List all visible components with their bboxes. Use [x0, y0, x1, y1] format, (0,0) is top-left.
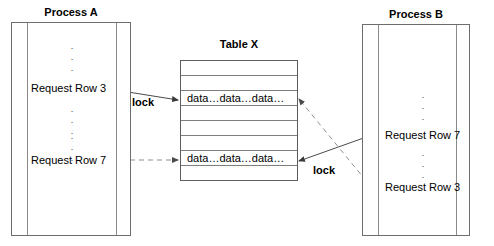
process-a-inner-line-left — [27, 23, 28, 235]
table-row — [181, 166, 297, 180]
table-row — [181, 76, 297, 91]
process-b-dots-top: · · · — [420, 92, 426, 125]
table-title: Table X — [180, 38, 298, 50]
process-a-title: Process A — [11, 6, 131, 18]
lock-label-left: lock — [132, 96, 154, 108]
table-row: data…data…data… — [181, 91, 297, 106]
lock-label-right: lock — [313, 164, 335, 176]
process-b-title: Process B — [362, 8, 470, 20]
process-b-dots-middle: · · · — [420, 150, 426, 183]
process-a-dots-top: · · · — [69, 43, 75, 76]
process-b-request-1: Request Row 3 — [385, 181, 460, 193]
process-a-request-0: Request Row 3 — [31, 82, 106, 94]
table-x-box: data…data…data… data…data…data… — [180, 60, 298, 181]
process-b-inner-line-left — [378, 25, 379, 235]
deadlock-diagram: Process A · · · Request Row 3 · · · · · … — [0, 0, 494, 246]
table-row — [181, 136, 297, 151]
table-row — [181, 121, 297, 136]
process-b-request-0: Request Row 7 — [385, 129, 460, 141]
table-row: data…data…data… — [181, 151, 297, 166]
table-row-text: data…data…data… — [187, 92, 284, 104]
table-row-text: data…data…data… — [187, 152, 284, 164]
process-a-inner-line-right — [116, 23, 117, 235]
table-row — [181, 106, 297, 121]
process-a-request-1: Request Row 7 — [31, 154, 106, 166]
table-row — [181, 61, 297, 76]
